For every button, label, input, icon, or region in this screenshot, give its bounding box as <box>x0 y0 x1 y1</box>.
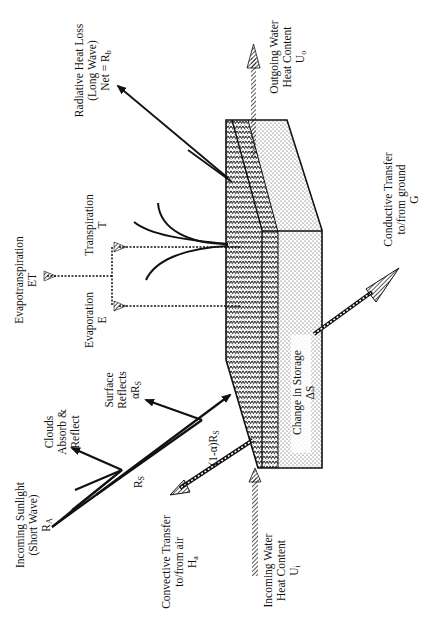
plant-icon <box>134 203 228 280</box>
label-incoming-water: Incoming Water Heat Content Ui <box>262 523 304 618</box>
label-incoming-sunlight: Incoming Sunlight (Short Wave) RA <box>14 450 56 600</box>
incoming-water-arrow <box>249 468 261 576</box>
label-rs: RS <box>132 467 148 497</box>
label-surface-reflects: Surface Reflects αRS <box>103 355 145 425</box>
label-change-in-storage: Change in Storage ΔS <box>291 335 317 450</box>
heat-budget-diagram: Incoming Sunlight (Short Wave) RA Clouds… <box>0 0 437 626</box>
label-absorbed-shortwave: (1-α)RS <box>207 418 223 478</box>
label-transpiration: Transpiration T <box>83 185 109 265</box>
conductive-transfer-arrow <box>314 268 399 334</box>
diagram-canvas <box>0 0 437 626</box>
label-radiative-heat-loss: Radiative Heat Loss (Long Wave) Net = Rb <box>73 13 115 128</box>
label-outgoing-water: Outgoing Water Heat Content Uo <box>268 12 310 102</box>
label-conductive-transfer: Conductive Transfer to/from ground G <box>382 137 421 262</box>
label-convective-transfer: Convective Transfer to/from air Ha <box>160 502 202 622</box>
evapotranspiration-lines <box>46 247 240 306</box>
longwave-radiation-arrows <box>118 86 232 182</box>
label-clouds: Clouds Absorb & Reflect <box>43 397 82 467</box>
label-evaporation: Evaporation E <box>83 285 109 355</box>
label-evapotranspiration: Evapotranspiration ET <box>13 225 39 335</box>
